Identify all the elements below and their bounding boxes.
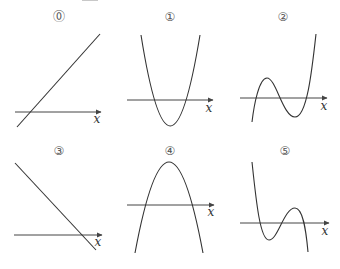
x-axis-label: x <box>95 235 102 249</box>
cubic-graph <box>252 34 316 122</box>
panel-1[interactable]: ① x <box>127 10 213 126</box>
parabola-up-graph <box>141 35 200 126</box>
panel-5[interactable]: ⑤ x <box>240 144 329 252</box>
cubic-graph <box>252 162 308 252</box>
x-axis-label: x <box>206 101 213 115</box>
graph-choices-figure: ⓪ x ① x ② x ③ x ④ x ⑤ x <box>0 0 340 269</box>
panel-2[interactable]: ② x <box>240 10 328 122</box>
panel-1-label: ① <box>165 10 176 24</box>
panel-4[interactable]: ④ x <box>127 144 215 253</box>
line-graph <box>15 163 96 250</box>
parabola-down-graph <box>135 162 203 253</box>
x-axis-label: x <box>94 112 101 126</box>
panel-5-label: ⑤ <box>280 144 291 158</box>
panel-4-label: ④ <box>165 144 176 158</box>
line-graph <box>17 34 100 127</box>
x-axis-label: x <box>321 99 328 113</box>
x-axis-label: x <box>322 224 329 238</box>
panel-0-label: ⓪ <box>53 10 65 24</box>
panel-3[interactable]: ③ x <box>14 144 102 250</box>
panel-2-label: ② <box>278 10 289 24</box>
x-axis-label: x <box>208 205 215 219</box>
panel-0[interactable]: ⓪ x <box>15 10 101 127</box>
panel-3-label: ③ <box>54 144 65 158</box>
